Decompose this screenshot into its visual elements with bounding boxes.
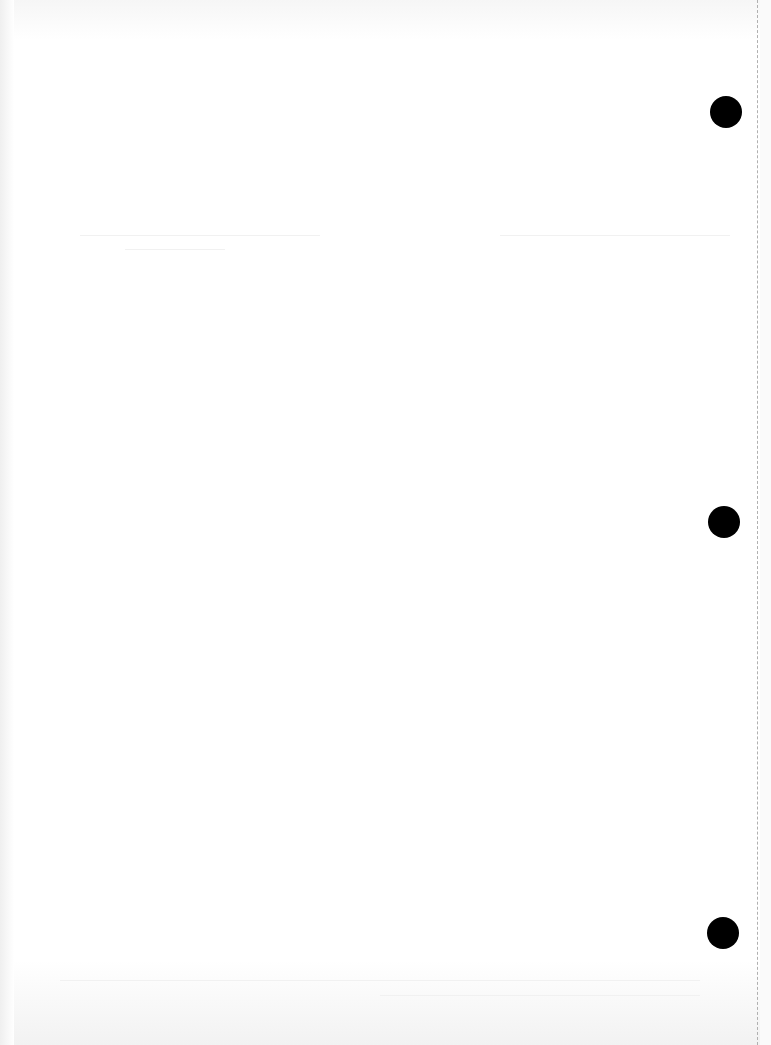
- bleed-through-mark: [80, 235, 320, 236]
- scanned-page: [0, 0, 771, 1045]
- punch-hole-top: [710, 96, 742, 128]
- bleed-through-mark: [380, 995, 700, 996]
- bleed-through-mark: [500, 235, 730, 236]
- perforation-line: [757, 0, 758, 1045]
- punch-hole-middle: [708, 506, 740, 538]
- bleed-through-mark: [60, 980, 700, 981]
- punch-hole-bottom: [707, 917, 739, 949]
- bleed-through-mark: [125, 249, 225, 250]
- margin-strip: [760, 0, 771, 1045]
- scan-edge-shadow: [0, 0, 14, 1045]
